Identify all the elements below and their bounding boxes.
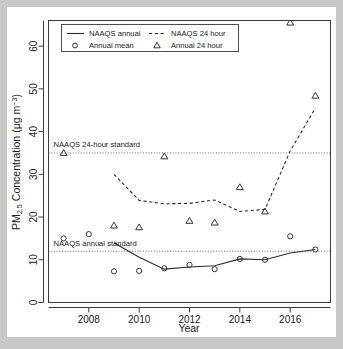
x-axis-label: Year (178, 322, 200, 334)
y-tick-label: 40 (28, 126, 39, 138)
y-tick-label: 30 (28, 168, 39, 180)
x-tick-label: 2010 (128, 314, 151, 325)
legend-label: Annual 24 hour (171, 41, 223, 50)
y-tick-label: 50 (28, 83, 39, 95)
chart-figure: 0102030405060 PM2.5 Concentration (µg m−… (7, 7, 336, 337)
annotation-label: NAAQS 24-hour standard (54, 140, 141, 149)
pm25-concentration-chart: 0102030405060 PM2.5 Concentration (µg m−… (7, 7, 336, 337)
y-tick-label: 0 (28, 299, 39, 305)
x-tick-label: 2016 (279, 314, 302, 325)
y-tick-label: 20 (28, 211, 39, 223)
legend-label: Annual mean (89, 41, 134, 50)
y-tick-label: 10 (28, 254, 39, 266)
chart-legend: NAAQS annualAnnual meanNAAQS 24 hourAnnu… (62, 25, 239, 52)
x-tick-label: 2008 (78, 314, 101, 325)
legend-label: NAAQS 24 hour (171, 29, 226, 38)
y-tick-label: 60 (28, 40, 39, 52)
annotation-label: NAAQS annual standard (54, 239, 137, 248)
legend-label: NAAQS annual (89, 29, 141, 38)
chart-background (7, 7, 336, 337)
x-tick-label: 2014 (229, 314, 252, 325)
